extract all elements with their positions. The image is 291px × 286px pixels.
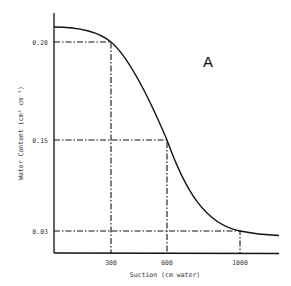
y-tick-label: 0.28 [32,39,48,47]
x-axis-label: Suction (cm water) [130,271,200,279]
y-tick-label: 0.15 [32,137,48,145]
panel-label: A [203,53,213,70]
x-tick-label: 1000 [232,259,248,267]
y-tick-label: 0.03 [32,228,48,236]
y-axis-label: Water Content (cm³ cm⁻³) [17,86,25,180]
reference-lines [54,42,240,253]
x-tick-label: 300 [105,259,117,267]
x-tick-label: 600 [161,259,173,267]
x-axis [54,253,279,254]
water-retention-chart: 0.28 0.15 0.03 300 600 1000 Suction (cm … [0,0,291,286]
ref-line-003 [54,231,240,253]
ref-line-028 [54,42,111,253]
